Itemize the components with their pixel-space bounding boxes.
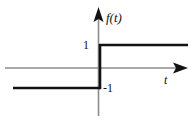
step-function-figure: f(t) 1 -1 t xyxy=(0,0,196,124)
y-tick-label-negative-1: -1 xyxy=(103,82,113,94)
x-axis-label: t xyxy=(164,74,167,86)
plot-canvas xyxy=(0,0,196,124)
y-tick-label-1: 1 xyxy=(83,39,89,51)
y-axis-label: f(t) xyxy=(106,11,122,24)
